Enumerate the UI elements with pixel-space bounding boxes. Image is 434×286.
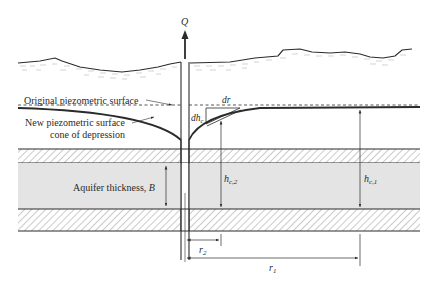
new-surface-label-2: cone of depression	[50, 129, 125, 140]
aquifer-thickness-label: Aquifer thickness, B	[73, 182, 155, 193]
dr-label: dr	[222, 95, 231, 105]
dh-label: dhc	[191, 113, 204, 124]
slope-triangle	[206, 108, 241, 126]
original-surface-pointer	[146, 100, 172, 105]
discharge-label: Q	[181, 16, 189, 27]
discharge-arrow	[182, 30, 189, 59]
cone-right	[189, 107, 420, 140]
ground-surface	[18, 49, 412, 79]
new-surface-label-1: New piezometric surface	[25, 117, 126, 128]
r1-label: r1	[269, 262, 276, 275]
original-surface-label: Original piezometric surface	[24, 95, 139, 106]
aquifer-diagram: Q dr dhc Original piezometric surface Ne…	[0, 0, 434, 286]
lower-confining-layer	[18, 209, 420, 231]
r2-label: r2	[199, 244, 207, 257]
